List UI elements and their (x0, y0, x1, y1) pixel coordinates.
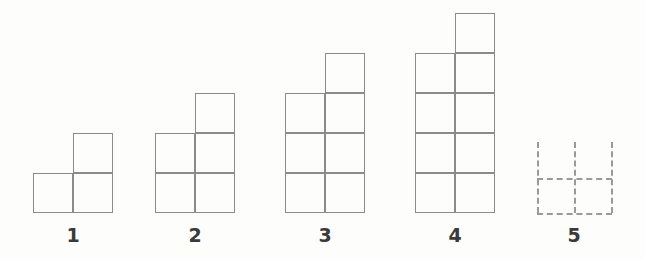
cell (73, 133, 113, 173)
cell (455, 13, 495, 53)
cell (415, 93, 455, 133)
cell (325, 53, 365, 93)
cell (195, 93, 235, 133)
cell (285, 133, 325, 173)
cell (325, 133, 365, 173)
cell (415, 133, 455, 173)
figure-4-shape (415, 13, 495, 213)
figure-label-2: 2 (175, 226, 215, 245)
cell (195, 173, 235, 213)
figure-label-4: 4 (435, 226, 475, 245)
cell (415, 53, 455, 93)
cell (73, 173, 113, 213)
figure-5-dashed-placeholder[interactable] (537, 142, 612, 213)
dashed-line-horizontal (537, 213, 612, 215)
cell (285, 173, 325, 213)
figure-1-shape (33, 133, 113, 213)
cell (455, 93, 495, 133)
cell (455, 173, 495, 213)
figure-label-1: 1 (53, 226, 93, 245)
figure-label-3: 3 (305, 226, 345, 245)
cell (155, 133, 195, 173)
cell (325, 173, 365, 213)
cell (195, 133, 235, 173)
cell (325, 93, 365, 133)
cell (415, 173, 455, 213)
figure-label-5: 5 (554, 226, 594, 245)
cell (285, 93, 325, 133)
cell (455, 133, 495, 173)
cell (33, 173, 73, 213)
sequence-figure-panel: 1 2 3 (0, 0, 645, 259)
cell (455, 53, 495, 93)
figure-2-shape (155, 93, 235, 213)
dashed-line-horizontal (537, 178, 612, 180)
figure-3-shape (285, 53, 365, 213)
cell (155, 173, 195, 213)
